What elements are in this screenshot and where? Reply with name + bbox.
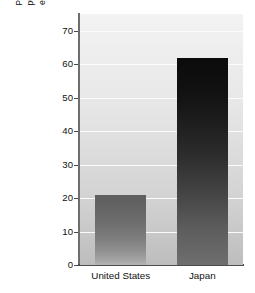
y-axis-label-line-1: Percentage of parents who say that the bbox=[14, 0, 25, 6]
y-tick-label-40: 40 bbox=[46, 126, 73, 136]
gridline-70 bbox=[80, 31, 243, 32]
y-tick-label-50: 50 bbox=[46, 93, 73, 103]
x-axis-tick-labels: United States Japan bbox=[80, 270, 243, 290]
x-tick-label-united-states: United States bbox=[91, 270, 150, 282]
plot-area bbox=[80, 14, 243, 265]
y-tick-label-70: 70 bbox=[46, 26, 73, 36]
y-tick-label-20: 20 bbox=[46, 193, 73, 203]
y-tick-label-60: 60 bbox=[46, 59, 73, 69]
bar-united-states[interactable] bbox=[95, 195, 146, 265]
y-axis-label-line-2: purpose of preschool is to give children bbox=[25, 0, 36, 6]
y-tick-label-0: 0 bbox=[46, 260, 73, 270]
y-axis-tick-labels: 70 60 50 40 30 20 10 0 bbox=[46, 0, 73, 293]
bar-chart-figure: Percentage of parents who say that the p… bbox=[0, 0, 255, 293]
x-tick-label-japan: Japan bbox=[189, 270, 216, 282]
y-tick-label-30: 30 bbox=[46, 160, 73, 170]
y-tick-label-10: 10 bbox=[46, 227, 73, 237]
bar-japan[interactable] bbox=[177, 58, 228, 265]
